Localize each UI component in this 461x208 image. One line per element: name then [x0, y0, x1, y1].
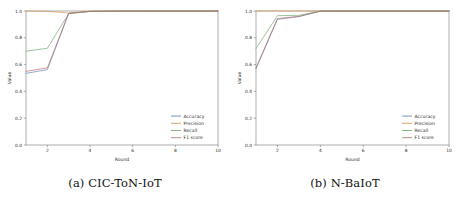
legend-label: Recall [415, 128, 429, 133]
x-axis-title: Round [115, 157, 130, 162]
y-axis-title: Value [237, 72, 242, 85]
plot-area-a: 0.00.20.40.60.81.0246810RoundValueAccura… [0, 0, 230, 175]
y-axis-tick-label: 1.0 [245, 9, 252, 14]
x-axis-tick-label: 6 [131, 148, 134, 153]
y-axis-tick-label: 0.4 [245, 89, 252, 94]
series-line [256, 11, 449, 69]
legend-label: Accuracy [415, 114, 436, 119]
x-axis-tick-label: 10 [215, 148, 221, 153]
y-axis-tick-label: 0.6 [245, 62, 252, 67]
x-axis-tick-label: 4 [89, 148, 92, 153]
series-line [256, 11, 449, 49]
y-axis-tick-label: 0.4 [15, 89, 22, 94]
x-axis-tick-label: 6 [362, 148, 365, 153]
x-axis-title: Round [345, 157, 360, 162]
chart-panel-b: 0.00.20.40.60.81.0246810RoundValueAccura… [230, 0, 460, 208]
x-axis-tick-label: 4 [319, 148, 322, 153]
legend-label: Precision [415, 121, 436, 126]
line-chart-b: 0.00.20.40.60.81.0246810RoundValueAccura… [230, 0, 461, 175]
x-axis-tick-label: 10 [446, 148, 452, 153]
x-axis-tick-label: 2 [276, 148, 279, 153]
x-axis-tick-label: 8 [174, 148, 177, 153]
series-line [26, 11, 218, 51]
panel-caption-a: (a) CIC-ToN-IoT [0, 176, 230, 190]
legend-label: Recall [184, 128, 198, 133]
y-axis-tick-label: 0.0 [245, 143, 252, 148]
x-axis-tick-label: 8 [405, 148, 408, 153]
y-axis-tick-label: 1.0 [15, 9, 22, 14]
y-axis-tick-label: 0.8 [15, 35, 22, 40]
y-axis-title: Value [7, 72, 12, 85]
series-line [256, 11, 449, 68]
y-axis-tick-label: 0.2 [15, 116, 22, 121]
y-axis-tick-label: 0.0 [15, 143, 22, 148]
series-line [26, 11, 218, 73]
legend-label: F1 score [415, 135, 435, 140]
panel-caption-b: (b) N-BaIoT [230, 176, 460, 190]
legend-label: Precision [184, 121, 205, 126]
plot-area-b: 0.00.20.40.60.81.0246810RoundValueAccura… [230, 0, 460, 175]
y-axis-tick-label: 0.2 [245, 116, 252, 121]
chart-panel-a: 0.00.20.40.60.81.0246810RoundValueAccura… [0, 0, 230, 208]
y-axis-tick-label: 0.8 [245, 35, 252, 40]
line-chart-a: 0.00.20.40.60.81.0246810RoundValueAccura… [0, 0, 230, 175]
series-line [26, 11, 218, 71]
legend-label: Accuracy [184, 114, 205, 119]
legend-label: F1 score [184, 135, 204, 140]
x-axis-tick-label: 2 [46, 148, 49, 153]
figure-row: 0.00.20.40.60.81.0246810RoundValueAccura… [0, 0, 461, 208]
y-axis-tick-label: 0.6 [15, 62, 22, 67]
